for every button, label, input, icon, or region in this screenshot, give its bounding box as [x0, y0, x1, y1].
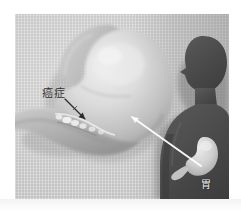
stomach-highlight — [93, 43, 145, 85]
figure-page: 癌症 胃 — [0, 0, 241, 211]
medical-illustration: 癌症 胃 — [15, 14, 229, 199]
label-stomach: 胃 — [201, 179, 211, 191]
silhouette-torso — [160, 104, 229, 199]
label-cancer: 癌症 — [42, 87, 65, 100]
anatomy-artwork — [15, 14, 229, 199]
page-baseline-strip — [0, 199, 241, 211]
